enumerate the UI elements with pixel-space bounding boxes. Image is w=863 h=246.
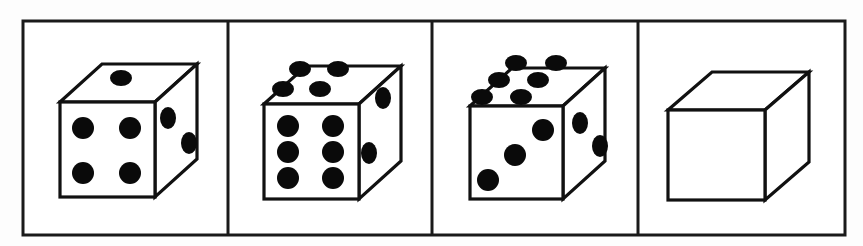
top-pip-2 [545,55,567,71]
panel-3-cube[interactable] [470,55,608,199]
front-pip-4 [119,162,141,184]
front-pip-3 [532,119,554,141]
panel-2-cube[interactable] [264,61,401,199]
panel-4-cube[interactable] [668,72,809,200]
top-pip-6 [471,89,493,105]
front-pip-6 [322,167,344,189]
cube-front-face [60,102,155,197]
front-pip-5 [277,167,299,189]
top-pip-2 [327,61,349,77]
top-pip-1 [505,55,527,71]
front-pip-2 [504,144,526,166]
dice-figure: Four dice panels A horizontal strip divi… [0,0,863,246]
panel-1-cube[interactable] [60,64,197,197]
front-pip-2 [322,115,344,137]
top-pip-4 [488,72,510,88]
right-pip-1 [160,107,176,129]
front-pip-3 [72,162,94,184]
front-pip-4 [322,141,344,163]
front-pip-2 [119,117,141,139]
top-pip-5 [510,89,532,105]
front-pip-1 [72,117,94,139]
front-pip-1 [277,115,299,137]
right-pip-2 [181,132,197,154]
right-pip-2 [361,142,377,164]
cube-front-face [668,110,765,200]
front-pip-3 [277,141,299,163]
top-pip-1 [289,61,311,77]
right-pip-1 [572,112,588,134]
top-pip-1 [110,70,132,86]
top-pip-4 [309,81,331,97]
top-pip-3 [272,81,294,97]
top-pip-3 [527,72,549,88]
right-pip-2 [592,135,608,157]
dice-illustration [0,0,863,246]
front-pip-1 [477,169,499,191]
right-pip-1 [375,87,391,109]
